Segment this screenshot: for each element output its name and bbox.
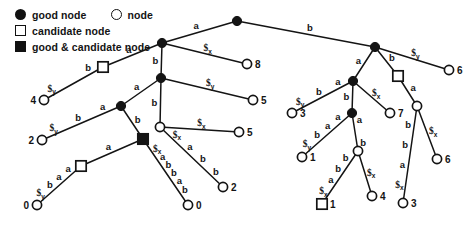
node[interactable] [39, 95, 48, 104]
edge-label: a [56, 171, 62, 182]
edge-label: a [328, 174, 334, 185]
node-layer [32, 16, 453, 209]
node[interactable] [444, 65, 453, 74]
node[interactable] [297, 152, 306, 161]
edge-label: $x [173, 130, 182, 142]
edge-label: $x [153, 144, 162, 156]
node[interactable] [242, 59, 251, 68]
edge-label: b [213, 166, 219, 177]
leaf-index-label: 6 [445, 154, 451, 165]
edge-label: b [405, 119, 411, 130]
edge-label: a [410, 82, 416, 93]
edge-label: b [307, 22, 313, 33]
edge-label: b [47, 179, 53, 190]
leaf-index-label: 6 [457, 65, 463, 76]
edge-label: b [182, 184, 188, 195]
candidate-node[interactable] [76, 161, 86, 171]
node[interactable] [432, 154, 441, 163]
edge-label: b [151, 97, 157, 108]
edge-label: $y [47, 84, 56, 97]
edge-label: $y [303, 139, 312, 152]
leaf-index-label: 3 [300, 108, 306, 119]
good-node[interactable] [232, 16, 241, 25]
leaf-index-label: 5 [261, 95, 267, 106]
leaf-index-label: 1 [310, 152, 316, 163]
edge-label: a [65, 163, 71, 174]
edge-label: b [171, 167, 177, 178]
edge-label: $y [50, 123, 59, 136]
edge-label: b [343, 152, 349, 163]
candidate-node[interactable] [317, 199, 327, 209]
edge-label: b [135, 114, 141, 125]
edge-label: a [134, 81, 140, 92]
leaf-index-label: 5 [247, 127, 253, 138]
edge-label: b [343, 91, 349, 102]
tree-edge [161, 43, 162, 78]
leaf-index-label: 2 [231, 182, 237, 193]
node[interactable] [367, 191, 376, 200]
node[interactable] [37, 135, 46, 144]
edge-label: b [165, 159, 171, 170]
edge-label: b [335, 163, 341, 174]
edge-label: $x [319, 186, 328, 198]
edge-label: a [194, 20, 200, 31]
edge-label: a [126, 44, 132, 55]
node[interactable] [155, 122, 164, 131]
edge-label: b [200, 153, 206, 164]
edge-label: $x [372, 88, 381, 100]
edge-label: b [314, 129, 320, 140]
edge-label: b [152, 55, 158, 66]
edge-label: $y [37, 188, 46, 201]
suffix-tree-graphic: aba$xb$yba$yb$ybabababba$x$ybaa$xbba$x$y… [0, 0, 475, 230]
leaf-index-label: 7 [398, 108, 404, 119]
node[interactable] [398, 198, 407, 207]
edge-label: a [335, 111, 341, 122]
good-node[interactable] [116, 101, 125, 110]
diagram-canvas: good node node candidate node good & can… [0, 0, 475, 230]
candidate-node[interactable] [98, 62, 108, 72]
tree-edge [162, 21, 237, 43]
tree-edge [237, 21, 375, 47]
node[interactable] [412, 101, 421, 110]
node[interactable] [287, 108, 296, 117]
node[interactable] [248, 95, 257, 104]
edge-label: b [389, 52, 395, 63]
good-node[interactable] [348, 76, 357, 85]
edge-label: $x [367, 168, 376, 180]
leaf-index-label: 0 [23, 200, 29, 211]
edge-label: a [357, 114, 363, 125]
edge-label: b [316, 86, 322, 97]
node[interactable] [183, 200, 192, 209]
good-node[interactable] [157, 38, 166, 47]
edge-label: $x [197, 118, 206, 130]
leaf-index-label: 2 [28, 135, 34, 146]
edge-label: a [356, 55, 362, 66]
leaf-index-label: 4 [30, 95, 36, 106]
good-node[interactable] [156, 73, 165, 82]
edge-label: a [187, 141, 193, 152]
leaf-index-label: 0 [196, 200, 202, 211]
leaf-index-label: 8 [255, 59, 261, 70]
edge-label: $x [395, 180, 404, 192]
good-node[interactable] [347, 108, 356, 117]
good-node[interactable] [370, 42, 379, 51]
edge-label: a [100, 101, 106, 112]
leaf-index-label: 3 [411, 198, 417, 209]
node[interactable] [32, 200, 41, 209]
edge-label: b [75, 112, 81, 123]
good-and-candidate-node[interactable] [138, 134, 148, 144]
candidate-node[interactable] [393, 71, 403, 81]
edge-label: $x [429, 126, 438, 138]
edge-label: $x [203, 43, 212, 55]
edge-label: a [106, 141, 112, 152]
node[interactable] [234, 127, 243, 136]
node[interactable] [385, 108, 394, 117]
tree-edge [143, 139, 188, 205]
edge-label: b [85, 62, 91, 73]
tree-edge [160, 78, 161, 127]
leaf-index-label: 4 [380, 191, 386, 202]
tree-edge [81, 139, 143, 166]
edge-label: a [177, 175, 183, 186]
node[interactable] [218, 182, 227, 191]
node[interactable] [353, 146, 362, 155]
